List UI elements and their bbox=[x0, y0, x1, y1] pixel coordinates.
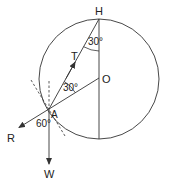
diagram-canvas: H O A T R W 30° 30° 60° bbox=[0, 0, 169, 182]
label-H: H bbox=[95, 5, 103, 17]
angle-label-H: 30° bbox=[88, 36, 103, 47]
label-O: O bbox=[102, 73, 111, 85]
label-W: W bbox=[44, 168, 55, 180]
label-A: A bbox=[51, 109, 58, 120]
angle-arc-H bbox=[84, 47, 99, 51]
label-T: T bbox=[71, 50, 78, 62]
angle-label-A: 30° bbox=[63, 82, 78, 93]
angle-label-RW: 60° bbox=[36, 118, 51, 129]
label-R: R bbox=[7, 132, 15, 144]
tension-arrow bbox=[66, 62, 75, 78]
